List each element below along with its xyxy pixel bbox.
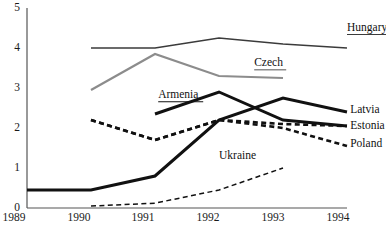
series-line-ukraine — [91, 168, 283, 206]
y-tick-1: 1 — [4, 162, 20, 174]
y-tick-5: 5 — [4, 2, 20, 14]
series-label-latvia: Latvia — [350, 104, 379, 116]
y-tick-4: 4 — [4, 42, 20, 54]
series-line-hungary — [91, 38, 347, 48]
series-label-hungary: Hungary — [347, 22, 386, 34]
x-tick-1992: 1992 — [188, 212, 228, 224]
chart-plot-area — [0, 0, 386, 229]
series-label-czech: Czech — [254, 57, 283, 69]
x-tick-1993: 1993 — [253, 212, 293, 224]
y-tick-3: 3 — [4, 82, 20, 94]
series-line-latvia — [27, 98, 347, 190]
series-label-poland: Poland — [350, 138, 382, 150]
axes — [27, 8, 347, 208]
x-tick-1991: 1991 — [123, 212, 163, 224]
line-chart: 5 4 3 2 1 0 1989 1990 1991 1992 1993 199… — [0, 0, 386, 229]
x-tick-1990: 1990 — [59, 212, 99, 224]
series-label-ukraine: Ukraine — [219, 150, 256, 162]
x-tick-1994: 1994 — [318, 212, 358, 224]
series-group — [27, 38, 347, 206]
series-label-estonia: Estonia — [350, 120, 385, 132]
x-tick-1989: 1989 — [0, 212, 34, 224]
series-label-armenia: Armenia — [158, 89, 198, 101]
y-tick-2: 2 — [4, 122, 20, 134]
